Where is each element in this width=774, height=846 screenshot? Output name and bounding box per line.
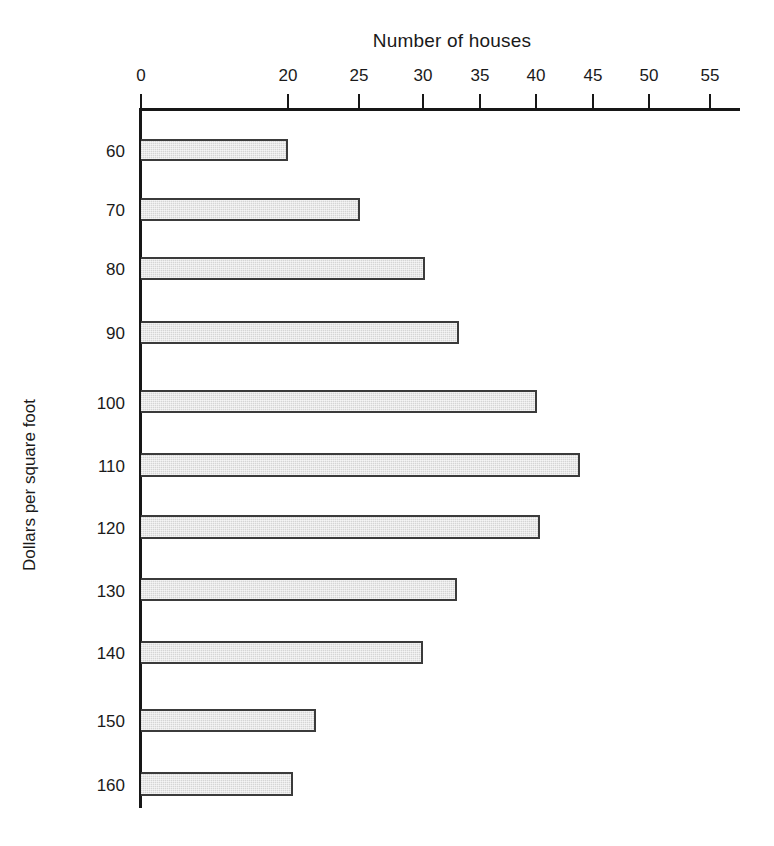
bar <box>141 641 423 664</box>
bar <box>141 321 459 344</box>
x-axis-tick-mark <box>358 94 360 109</box>
x-axis-tick-label: 20 <box>279 66 298 86</box>
y-axis-tick-label: 140 <box>55 644 125 664</box>
chart-title: Number of houses <box>0 30 774 52</box>
bar-chart: Number of houses Dollars per square foot… <box>0 0 774 846</box>
bar <box>141 198 360 221</box>
bar <box>141 578 457 601</box>
y-axis-tick-label: 90 <box>55 324 125 344</box>
x-axis-tick-mark <box>287 94 289 109</box>
bar <box>141 772 293 796</box>
y-axis-tick-label: 150 <box>55 712 125 732</box>
x-axis-tick-label: 50 <box>640 66 659 86</box>
x-axis-tick-label: 25 <box>350 66 369 86</box>
y-axis-tick-label: 80 <box>55 260 125 280</box>
x-axis-tick-mark <box>422 94 424 109</box>
y-axis-tick-label: 100 <box>55 394 125 414</box>
y-axis-title: Dollars per square foot <box>10 370 50 600</box>
x-axis-tick-label: 30 <box>414 66 433 86</box>
x-axis-line <box>140 108 740 111</box>
x-axis-tick-mark <box>535 94 537 109</box>
y-axis-tick-label: 60 <box>55 142 125 162</box>
x-axis-tick-label: 40 <box>527 66 546 86</box>
x-axis-tick-label: 0 <box>136 66 145 86</box>
y-axis-tick-label: 130 <box>55 582 125 602</box>
y-axis-tick-label: 160 <box>55 776 125 796</box>
x-axis-tick-label: 35 <box>471 66 490 86</box>
y-axis-tick-label: 120 <box>55 519 125 539</box>
bar <box>141 515 540 539</box>
x-axis-tick-label: 55 <box>701 66 720 86</box>
y-axis-tick-label: 70 <box>55 201 125 221</box>
y-axis-title-text: Dollars per square foot <box>20 399 40 571</box>
x-axis-tick-mark <box>709 94 711 109</box>
bar <box>141 139 288 161</box>
bar <box>141 453 580 477</box>
x-axis-tick-mark <box>479 94 481 109</box>
bar <box>141 257 425 280</box>
x-axis-tick-mark <box>592 94 594 109</box>
x-axis-tick-mark <box>648 94 650 109</box>
y-axis-tick-label: 110 <box>55 457 125 477</box>
x-axis-tick-mark <box>140 94 142 109</box>
x-axis-tick-label: 45 <box>584 66 603 86</box>
bar <box>141 390 537 413</box>
bar <box>141 709 316 732</box>
